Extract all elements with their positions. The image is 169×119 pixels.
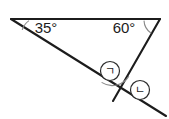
mark-one-label: ㄱ [105,65,115,78]
right-angle-arc [144,21,151,34]
right-angle-label: 60° [113,19,136,36]
geometry-figure: 35° 60° ㄱ ㄴ [0,0,169,119]
left-angle-label: 35° [35,19,58,36]
geometry-canvas: 35° 60° ㄱ ㄴ [0,0,169,119]
mark-two-label: ㄴ [135,84,145,97]
